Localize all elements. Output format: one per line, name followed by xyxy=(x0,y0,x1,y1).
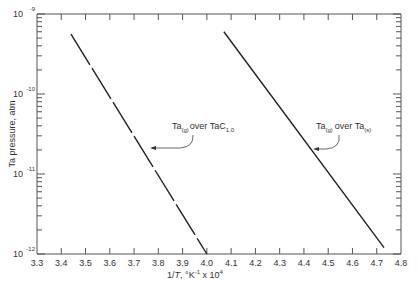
data-series xyxy=(71,32,384,254)
x-tick-label: 3.6 xyxy=(104,258,117,268)
y-tick-label: 10 xyxy=(13,169,23,179)
x-tick-label: 4.3 xyxy=(273,258,286,268)
x-tick-label: 3.7 xyxy=(128,258,141,268)
x-tick-label: 3.5 xyxy=(79,258,92,268)
annotation-ta: Ta(g)over Ta(s) xyxy=(313,121,371,151)
y-tick-exponent: -9 xyxy=(30,6,36,12)
x-tick-label: 4.2 xyxy=(249,258,262,268)
x-tick-label: 3.8 xyxy=(152,258,165,268)
x-tick-label: 4.7 xyxy=(370,258,383,268)
x-tick-label: 4.1 xyxy=(225,258,238,268)
arrow-head-icon xyxy=(313,147,319,151)
x-tick-label: 3.3 xyxy=(31,258,44,268)
x-tick-label: 4.0 xyxy=(201,258,214,268)
y-axis-ticks: 10-910-1010-1110-12 xyxy=(13,6,401,259)
y-tick-label: 10 xyxy=(13,89,23,99)
y-tick-label: 10 xyxy=(13,249,23,259)
series-line-0 xyxy=(71,34,207,254)
plot-frame xyxy=(37,14,401,254)
annotation-tac: Ta(g)over TaC1.0 xyxy=(150,121,235,150)
y-axis-label: Ta pressure, atm xyxy=(7,100,17,167)
x-tick-label: 4.6 xyxy=(346,258,359,268)
x-tick-label: 4.5 xyxy=(322,258,335,268)
chart: 3.33.43.53.63.73.83.94.04.14.24.34.44.54… xyxy=(0,0,418,291)
x-axis-ticks: 3.33.43.53.63.73.83.94.04.14.24.34.44.54… xyxy=(31,14,408,268)
y-tick-exponent: -12 xyxy=(26,246,35,252)
svg-text:Ta(g)over TaC1.0: Ta(g)over TaC1.0 xyxy=(172,121,235,133)
svg-text:Ta(g)over Ta(s): Ta(g)over Ta(s) xyxy=(316,121,371,133)
x-tick-label: 3.9 xyxy=(176,258,189,268)
x-tick-label: 3.4 xyxy=(55,258,68,268)
x-tick-label: 4.4 xyxy=(298,258,311,268)
series-line-1 xyxy=(224,32,384,248)
x-tick-label: 4.8 xyxy=(395,258,408,268)
x-axis-label: 1/T, °K-1 x 104 xyxy=(167,269,223,280)
y-tick-label: 10 xyxy=(13,9,23,19)
y-tick-exponent: -11 xyxy=(27,166,36,172)
y-tick-exponent: -10 xyxy=(26,86,35,92)
arrow-head-icon xyxy=(150,146,156,150)
